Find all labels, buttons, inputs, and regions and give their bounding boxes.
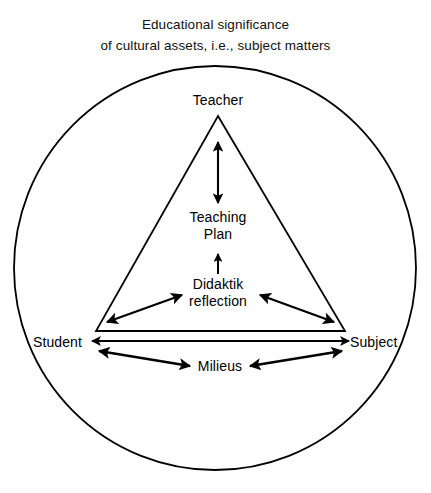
node-label-teaching-plan: Teaching Plan [158,209,278,243]
diagram-root: Educational significance of cultural ass… [0,0,431,493]
diagram-canvas [0,0,431,493]
teaching-plan-line-1: Teaching [190,209,247,225]
connector-subject-milieus [250,351,342,366]
node-label-teacher: Teacher [193,92,244,109]
node-label-didaktik-reflection: Didaktik reflection [153,276,283,310]
didaktik-line-1: Didaktik [193,276,244,292]
teaching-plan-line-2: Plan [204,226,232,242]
outer-circle [14,66,416,470]
node-label-student: Student [33,334,82,351]
connector-student-milieus [99,351,190,366]
node-label-milieus: Milieus [198,358,242,375]
didaktik-line-2: reflection [189,293,247,309]
node-label-subject: Subject [350,334,397,351]
